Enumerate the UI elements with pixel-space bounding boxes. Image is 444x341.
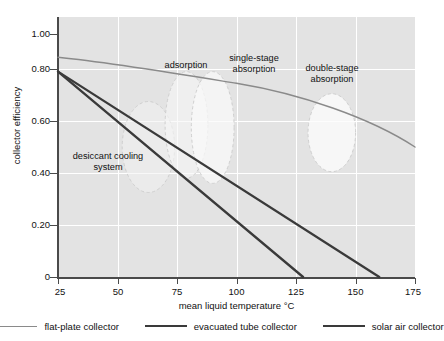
annotation-desiccant-cooling-system: desiccant cooling system bbox=[60, 151, 156, 173]
x-tick-mark-150 bbox=[356, 278, 357, 284]
legend-label-solar-air-collector: solar air collector bbox=[372, 321, 444, 332]
annotation-double-stage-line2: absorption bbox=[292, 74, 372, 85]
gridline-v-150 bbox=[356, 17, 357, 277]
y-tick-020: 0.20 bbox=[0, 220, 50, 230]
x-tick-mark-25 bbox=[58, 278, 59, 284]
gridline-h-060 bbox=[58, 121, 415, 122]
chart-legend: flat-plate collector evacuated tube coll… bbox=[0, 316, 439, 336]
y-tick-060: 0.60 bbox=[0, 116, 50, 126]
y-axis-label: collector efficiency bbox=[11, 66, 22, 186]
y-tick-mark-020 bbox=[50, 225, 57, 226]
y-tick-mark-060 bbox=[50, 121, 57, 122]
gridline-v-125 bbox=[296, 17, 297, 277]
y-tick-label-0: 0 bbox=[6, 272, 50, 282]
x-tick-mark-175 bbox=[415, 278, 416, 284]
x-tick-label-150: 150 bbox=[336, 286, 376, 297]
y-axis-line bbox=[57, 17, 59, 278]
y-tick-040: 0.40 bbox=[0, 168, 50, 178]
y-tick-0: 0 bbox=[0, 272, 50, 282]
annotation-single-stage-absorption: single-stage absorption bbox=[215, 53, 293, 75]
legend-label-flat-plate-collector: flat-plate collector bbox=[44, 321, 118, 332]
annotation-desiccant-line2: system bbox=[60, 162, 156, 173]
annotation-single-stage-line1: single-stage bbox=[215, 53, 293, 64]
x-tick-mark-125 bbox=[296, 278, 297, 284]
legend-item-solar-air-collector[interactable]: solar air collector bbox=[323, 321, 444, 332]
annotation-double-stage-line1: double-stage bbox=[292, 63, 372, 74]
legend-item-evacuated-tube-collector[interactable]: evacuated tube collector bbox=[145, 321, 297, 332]
legend-swatch-evacuated-tube-collector bbox=[145, 325, 187, 327]
x-tick-label-175: 175 bbox=[393, 286, 433, 297]
y-tick-label-020: 0.20 bbox=[6, 220, 50, 230]
y-tick-080: 0.80 bbox=[0, 64, 50, 74]
y-tick-mark-080 bbox=[50, 69, 57, 70]
legend-item-flat-plate-collector[interactable]: flat-plate collector bbox=[0, 321, 119, 332]
annotation-single-stage-line2: absorption bbox=[215, 64, 293, 75]
gridline-h-040 bbox=[58, 173, 415, 174]
x-tick-mark-50 bbox=[118, 278, 119, 284]
x-tick-mark-75 bbox=[177, 278, 178, 284]
x-tick-label-25: 25 bbox=[40, 286, 80, 297]
legend-label-evacuated-tube-collector: evacuated tube collector bbox=[194, 321, 297, 332]
gridline-v-50 bbox=[118, 17, 119, 277]
gridline-v-75 bbox=[177, 17, 178, 277]
y-tick-mark-040 bbox=[50, 173, 57, 174]
y-tick-mark-0 bbox=[50, 277, 57, 278]
annotation-desiccant-line1: desiccant cooling bbox=[60, 151, 156, 162]
x-tick-label-50: 50 bbox=[98, 286, 138, 297]
x-axis-label: mean liquid temperature °C bbox=[58, 300, 415, 311]
x-tick-label-75: 75 bbox=[157, 286, 197, 297]
y-tick-100: 1.00 bbox=[0, 29, 50, 39]
x-tick-mark-100 bbox=[237, 278, 238, 284]
x-tick-label-100: 100 bbox=[217, 286, 257, 297]
annotation-double-stage-absorption: double-stage absorption bbox=[292, 63, 372, 85]
y-tick-label-100: 1.00 bbox=[6, 29, 50, 39]
y-tick-mark-100 bbox=[50, 34, 57, 35]
legend-swatch-solar-air-collector bbox=[323, 325, 365, 327]
legend-swatch-flat-plate-collector bbox=[0, 326, 37, 327]
x-tick-label-125: 125 bbox=[276, 286, 316, 297]
gridline-h-020 bbox=[58, 225, 415, 226]
